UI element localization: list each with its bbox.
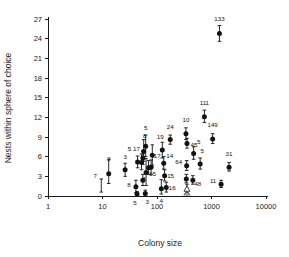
- point-label: 4: [160, 197, 164, 204]
- marker-filled-circle: [183, 131, 188, 136]
- x-tick-label: 1000: [203, 202, 220, 211]
- data-point: 24: [167, 123, 174, 145]
- marker-filled-circle: [184, 163, 189, 168]
- data-point: 16: [164, 182, 176, 192]
- point-label: 16: [169, 184, 176, 191]
- data-point: 4: [159, 180, 164, 204]
- y-axis-title: Nests within sphere of choice: [3, 52, 13, 163]
- data-point: 11: [210, 177, 224, 187]
- data-point: [184, 174, 189, 183]
- marker-filled-circle: [123, 167, 128, 172]
- x-axis-title: Colony size: [138, 238, 182, 248]
- data-point: 64: [175, 158, 189, 171]
- marker-filled-circle: [140, 155, 145, 160]
- marker-filled-circle: [202, 114, 207, 119]
- marker-filled-circle: [149, 165, 154, 170]
- y-tick-label: 21: [34, 54, 42, 63]
- marker-filled-circle: [143, 144, 148, 149]
- marker-filled-circle: [219, 182, 224, 187]
- marker-filled-circle: [210, 136, 215, 141]
- marker-filled-circle: [159, 186, 164, 191]
- point-label: 3: [123, 153, 127, 160]
- marker-filled-circle: [106, 171, 111, 176]
- marker-filled-circle: [198, 161, 203, 166]
- data-points-group: 7338551785341517419141516241045646654851…: [94, 15, 233, 206]
- y-tick-label: 24: [34, 34, 42, 43]
- point-label: 133: [214, 15, 225, 22]
- y-tick-label: 9: [38, 133, 42, 142]
- point-label: 15: [149, 170, 156, 177]
- point-label: 17: [133, 145, 140, 152]
- axes-group: 0369121518212427110100100010000: [34, 15, 277, 211]
- data-point: 111: [200, 99, 210, 123]
- y-tick-label: 15: [34, 93, 42, 102]
- axis-titles-group: Colony size Nests within sphere of choic…: [3, 52, 182, 248]
- marker-filled-circle: [168, 137, 173, 142]
- marker-filled-circle: [133, 184, 138, 189]
- point-label: 24: [167, 123, 174, 130]
- point-label: 19: [157, 133, 164, 140]
- point-label: 8: [143, 132, 147, 139]
- x-tick-label: 1: [46, 202, 50, 211]
- data-point: 3: [106, 155, 111, 184]
- point-label: 11: [210, 177, 217, 184]
- y-tick-label: 6: [38, 152, 42, 161]
- data-point: 14: [161, 152, 173, 169]
- point-label: 10: [183, 116, 190, 123]
- point-label: 111: [200, 99, 210, 106]
- point-label: 5: [197, 138, 201, 145]
- point-label: 4: [142, 175, 146, 182]
- data-point: 48: [190, 176, 201, 188]
- point-label: 5: [200, 147, 204, 154]
- point-label: 5: [144, 124, 148, 131]
- y-tick-label: 0: [38, 192, 42, 201]
- marker-filled-circle: [227, 165, 232, 170]
- data-point: 8: [127, 180, 138, 192]
- y-tick-label: 27: [34, 15, 42, 24]
- data-point: 66: [184, 184, 191, 198]
- data-point: 5: [198, 147, 205, 169]
- point-label: 3: [146, 198, 150, 205]
- point-label: 64: [175, 158, 182, 165]
- point-label: 7: [94, 172, 98, 179]
- data-point: 7: [94, 172, 104, 193]
- data-point: 3: [143, 190, 150, 205]
- point-label: 149: [207, 121, 218, 128]
- data-point: 31: [226, 150, 233, 171]
- data-point: 15: [162, 170, 174, 181]
- marker-filled-circle: [184, 176, 189, 181]
- data-point: 10: [183, 116, 190, 140]
- plot-canvas: 0369121518212427110100100010000 73385517…: [0, 0, 289, 257]
- point-label: 5: [133, 199, 137, 206]
- point-label: 15: [167, 172, 174, 179]
- point-label: 8: [127, 181, 131, 188]
- x-tick-label: 10000: [256, 202, 277, 211]
- marker-filled-circle: [184, 141, 189, 146]
- point-label: 14: [166, 152, 173, 159]
- point-label: 3: [107, 155, 111, 162]
- point-label: 5: [128, 145, 132, 152]
- y-tick-label: 3: [38, 172, 42, 181]
- data-point: 149: [207, 121, 218, 144]
- point-label: 31: [226, 150, 233, 157]
- scatter-plot-figure: 0369121518212427110100100010000 73385517…: [0, 0, 289, 257]
- marker-filled-circle: [217, 31, 222, 36]
- marker-filled-circle: [191, 151, 196, 156]
- marker-filled-circle: [160, 148, 165, 153]
- data-point: 133: [214, 15, 225, 41]
- marker-filled-circle: [143, 191, 148, 196]
- marker-filled-circle: [161, 161, 166, 166]
- point-label: 17: [154, 152, 161, 159]
- marker-filled-circle: [135, 192, 140, 197]
- point-label: 48: [194, 180, 201, 187]
- data-point: 5: [133, 191, 139, 206]
- y-tick-label: 12: [34, 113, 42, 122]
- data-point: 3: [123, 153, 128, 177]
- point-label: 66: [184, 191, 191, 198]
- x-tick-label: 10: [98, 202, 106, 211]
- y-tick-label: 18: [34, 74, 42, 83]
